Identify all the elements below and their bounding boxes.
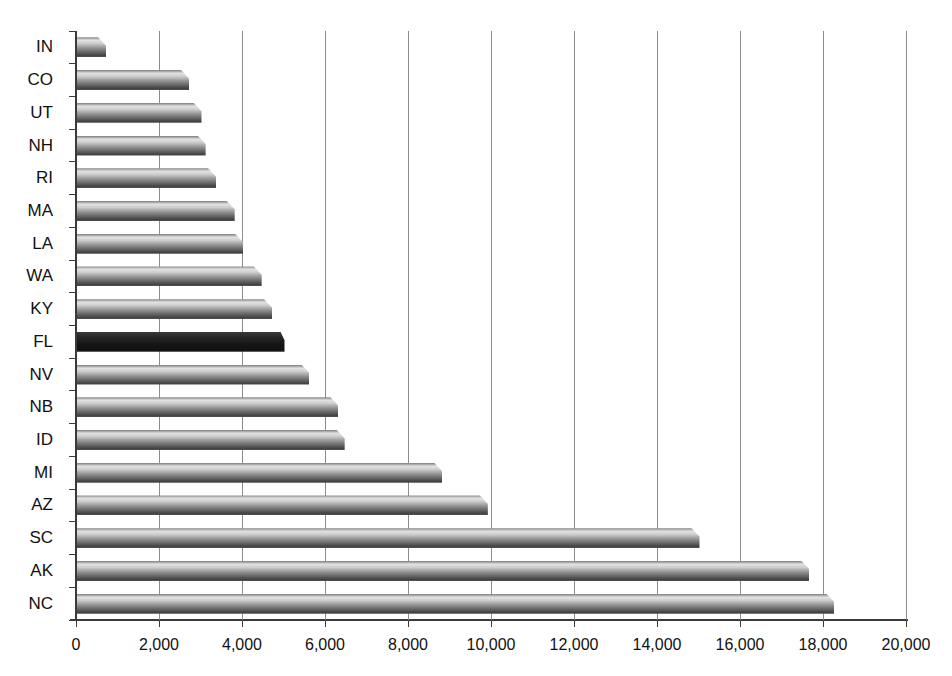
y-axis-label-sc: SC bbox=[0, 528, 53, 548]
x-axis-tick-label: 16,000 bbox=[716, 636, 765, 654]
bar-id bbox=[77, 430, 345, 450]
bar-az bbox=[77, 495, 488, 515]
gridline bbox=[906, 31, 907, 620]
x-axis-tick bbox=[408, 621, 409, 627]
y-axis-tick bbox=[69, 260, 75, 261]
y-axis-tick bbox=[69, 161, 75, 162]
bar-mi bbox=[77, 463, 442, 483]
x-axis-tick bbox=[657, 621, 658, 627]
bar-la bbox=[77, 234, 243, 254]
y-axis-label-id: ID bbox=[0, 430, 53, 450]
x-axis-tick bbox=[906, 621, 907, 627]
bar-nb bbox=[77, 397, 338, 417]
x-axis-tick bbox=[740, 621, 741, 627]
y-axis-tick bbox=[69, 194, 75, 195]
y-axis-tick bbox=[69, 554, 75, 555]
y-axis-label-nc: NC bbox=[0, 594, 53, 614]
y-axis-tick bbox=[69, 620, 75, 621]
y-axis-label-ky: KY bbox=[0, 299, 53, 319]
bar-chart: 02,0004,0006,0008,00010,00012,00014,0001… bbox=[0, 0, 952, 676]
x-axis-tick-label: 12,000 bbox=[550, 636, 599, 654]
bar-nc bbox=[77, 594, 834, 614]
y-axis-tick bbox=[69, 390, 75, 391]
x-axis-tick-label: 10,000 bbox=[467, 636, 516, 654]
y-axis-tick bbox=[69, 129, 75, 130]
bar-ky bbox=[77, 299, 272, 319]
y-axis-tick bbox=[69, 96, 75, 97]
y-axis-tick bbox=[69, 587, 75, 588]
x-axis-tick-label: 14,000 bbox=[633, 636, 682, 654]
plot-area bbox=[76, 31, 906, 620]
y-axis-tick bbox=[69, 325, 75, 326]
bar-nv bbox=[77, 365, 309, 385]
x-axis-tick bbox=[159, 621, 160, 627]
y-axis-label-nh: NH bbox=[0, 136, 53, 156]
x-axis-tick-label: 8,000 bbox=[388, 636, 428, 654]
gridline bbox=[823, 31, 824, 620]
y-axis-label-ak: AK bbox=[0, 561, 53, 581]
x-axis-tick bbox=[325, 621, 326, 627]
y-axis-label-ma: MA bbox=[0, 201, 53, 221]
bar-ak bbox=[77, 561, 809, 581]
x-axis-tick bbox=[76, 621, 77, 627]
y-axis-label-in: IN bbox=[0, 37, 53, 57]
bar-nh bbox=[77, 136, 206, 156]
y-axis-label-ri: RI bbox=[0, 168, 53, 188]
y-axis-line bbox=[75, 31, 77, 620]
x-axis-tick-label: 18,000 bbox=[799, 636, 848, 654]
y-axis-label-nv: NV bbox=[0, 365, 53, 385]
y-axis-label-az: AZ bbox=[0, 495, 53, 515]
y-axis-label-nb: NB bbox=[0, 397, 53, 417]
x-axis-tick-label: 6,000 bbox=[305, 636, 345, 654]
y-axis-tick bbox=[69, 358, 75, 359]
x-axis-tick-label: 20,000 bbox=[882, 636, 931, 654]
y-axis-tick bbox=[69, 456, 75, 457]
y-axis-label-mi: MI bbox=[0, 463, 53, 483]
bar-in bbox=[77, 37, 106, 57]
bar-co bbox=[77, 70, 189, 90]
bar-ri bbox=[77, 168, 216, 188]
bar-ut bbox=[77, 103, 202, 123]
x-axis-tick bbox=[823, 621, 824, 627]
y-axis-tick bbox=[69, 489, 75, 490]
x-axis-tick bbox=[491, 621, 492, 627]
x-axis-line bbox=[70, 619, 908, 621]
y-axis-tick bbox=[69, 292, 75, 293]
y-axis-tick bbox=[69, 63, 75, 64]
y-axis-label-ut: UT bbox=[0, 103, 53, 123]
y-axis-tick bbox=[69, 521, 75, 522]
y-axis-label-fl: FL bbox=[0, 332, 53, 352]
gridline bbox=[740, 31, 741, 620]
bar-sc bbox=[77, 528, 700, 548]
x-axis-tick bbox=[574, 621, 575, 627]
bar-ma bbox=[77, 201, 235, 221]
y-axis-tick bbox=[69, 423, 75, 424]
bar-fl bbox=[77, 332, 285, 352]
bar-wa bbox=[77, 266, 262, 286]
y-axis-tick bbox=[69, 31, 75, 32]
x-axis-tick bbox=[242, 621, 243, 627]
y-axis-label-la: LA bbox=[0, 234, 53, 254]
x-axis-tick-label: 0 bbox=[72, 636, 81, 654]
x-axis-tick-label: 4,000 bbox=[222, 636, 262, 654]
y-axis-label-co: CO bbox=[0, 70, 53, 90]
x-axis-tick-label: 2,000 bbox=[139, 636, 179, 654]
y-axis-label-wa: WA bbox=[0, 266, 53, 286]
y-axis-tick bbox=[69, 227, 75, 228]
